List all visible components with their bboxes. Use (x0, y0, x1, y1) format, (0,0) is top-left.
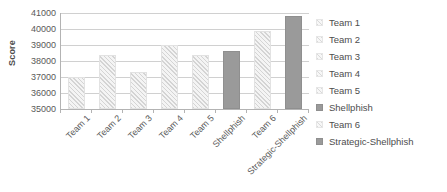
y-axis-tick-label: 41000 (16, 9, 56, 18)
legend-item[interactable]: Shellphish (316, 99, 447, 116)
bar-slot (254, 13, 270, 109)
bar-slot (285, 13, 301, 109)
bar[interactable] (99, 55, 115, 109)
bar[interactable] (285, 16, 301, 109)
legend-item-label: Strategic-Shellphish (329, 136, 414, 147)
legend-item[interactable]: Team 6 (316, 116, 447, 133)
legend-item-label: Shellphish (329, 102, 373, 113)
bar[interactable] (223, 51, 239, 109)
y-axis-tick-label: 40000 (16, 25, 56, 34)
plot-area (60, 13, 309, 110)
bar[interactable] (161, 45, 177, 109)
legend-item-label: Team 6 (329, 119, 360, 130)
legend-item-label: Team 3 (329, 51, 360, 62)
legend-item-label: Team 5 (329, 85, 360, 96)
bar[interactable] (130, 72, 146, 109)
bar-slot (192, 13, 208, 109)
bar-slot (161, 13, 177, 109)
legend-item[interactable]: Team 4 (316, 65, 447, 82)
bars (61, 13, 309, 109)
legend-item-label: Team 4 (329, 68, 360, 79)
bar-slot (223, 13, 239, 109)
legend-item[interactable]: Team 3 (316, 48, 447, 65)
legend: Team 1Team 2Team 3Team 4Team 5Shellphish… (316, 14, 447, 150)
bar[interactable] (254, 31, 270, 109)
legend-swatch-icon (316, 70, 323, 77)
legend-item-label: Team 1 (329, 17, 360, 28)
legend-swatch-icon (316, 87, 323, 94)
bar-slot (68, 13, 84, 109)
y-axis-tick-label: 36000 (16, 89, 56, 98)
legend-swatch-icon (316, 53, 323, 60)
bar-slot (99, 13, 115, 109)
y-axis-tick-label: 38000 (16, 57, 56, 66)
bar[interactable] (192, 55, 208, 109)
y-axis-tick-label: 37000 (16, 73, 56, 82)
y-axis-tick-label: 39000 (16, 41, 56, 50)
legend-swatch-icon (316, 121, 323, 128)
bar-chart: Score 4100040000390003800037000360003500… (0, 0, 447, 192)
bar-slot (130, 13, 146, 109)
legend-item[interactable]: Team 1 (316, 14, 447, 31)
legend-item[interactable]: Strategic-Shellphish (316, 133, 447, 150)
legend-swatch-icon (316, 36, 323, 43)
legend-swatch-icon (316, 104, 323, 111)
legend-item-label: Team 2 (329, 34, 360, 45)
y-axis-tick-labels: 41000400003900038000370003600035000 (16, 8, 56, 109)
legend-swatch-icon (316, 138, 323, 145)
bar[interactable] (68, 77, 84, 109)
legend-swatch-icon (316, 19, 323, 26)
legend-item[interactable]: Team 5 (316, 82, 447, 99)
legend-item[interactable]: Team 2 (316, 31, 447, 48)
